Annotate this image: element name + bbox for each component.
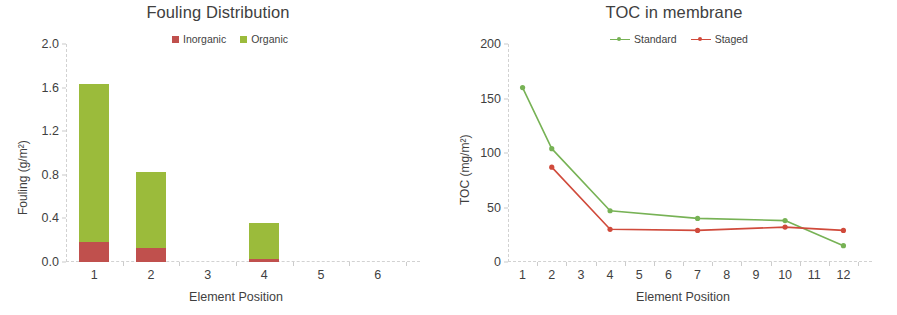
x-axis-line-fouling <box>66 261 420 262</box>
chart-panel-fouling-distribution: Fouling Distribution Inorganic Organic F… <box>0 0 440 315</box>
plot-area-toc-in-membrane: 050100150200123456789101112 <box>508 44 858 262</box>
x-tick-label-toc: 5 <box>636 268 643 282</box>
data-point-standard[interactable] <box>520 85 525 90</box>
bar-element-4[interactable] <box>249 223 279 262</box>
data-point-standard[interactable] <box>695 216 700 221</box>
chart-panel-toc-in-membrane: TOC in membrane Standard Staged TOC (mg/… <box>440 0 897 315</box>
legend-swatch-inorganic <box>172 36 179 43</box>
y-tick-mark-fouling <box>62 218 66 219</box>
y-axis-title-fouling: Fouling (g/m²) <box>16 140 30 215</box>
x-tick-mark-fouling <box>123 262 124 266</box>
x-tick-label-toc: 12 <box>836 268 850 282</box>
line-series-standard[interactable] <box>523 88 844 246</box>
x-tick-mark-toc <box>654 262 655 266</box>
legend-line-marker-staged <box>691 36 711 43</box>
y-tick-mark-fouling <box>62 44 66 45</box>
y-tick-mark-fouling <box>62 262 66 263</box>
data-point-standard[interactable] <box>607 208 612 213</box>
data-point-staged[interactable] <box>782 225 787 230</box>
x-tick-mark-toc <box>712 262 713 266</box>
data-point-staged[interactable] <box>549 165 554 170</box>
x-tick-mark-toc <box>537 262 538 266</box>
y-tick-mark-fouling <box>62 131 66 132</box>
data-point-staged[interactable] <box>607 227 612 232</box>
y-tick-mark-fouling <box>62 87 66 88</box>
x-tick-label-fouling: 1 <box>91 268 98 282</box>
bar-element-2[interactable] <box>136 172 166 262</box>
bar-segment-organic <box>136 172 166 248</box>
x-tick-label-toc: 4 <box>607 268 614 282</box>
x-tick-mark-fouling <box>349 262 350 266</box>
x-tick-mark-fouling <box>406 262 407 266</box>
bar-segment-inorganic <box>136 248 166 262</box>
x-tick-mark-toc <box>596 262 597 266</box>
x-tick-mark-toc <box>625 262 626 266</box>
x-tick-label-toc: 9 <box>752 268 759 282</box>
x-tick-mark-toc <box>829 262 830 266</box>
x-tick-mark-toc <box>858 262 859 266</box>
x-tick-mark-toc <box>683 262 684 266</box>
x-tick-label-toc: 10 <box>778 268 792 282</box>
x-tick-label-toc: 11 <box>808 268 821 282</box>
x-tick-label-fouling: 5 <box>318 268 325 282</box>
x-axis-title-fouling: Element Position <box>66 290 406 304</box>
x-tick-label-toc: 2 <box>548 268 555 282</box>
x-tick-mark-toc <box>566 262 567 266</box>
data-point-staged[interactable] <box>695 228 700 233</box>
x-tick-label-toc: 8 <box>723 268 730 282</box>
bar-segment-organic <box>249 223 279 259</box>
plot-area-fouling-distribution: 0.00.40.81.21.62.0123456 <box>66 44 406 262</box>
chart-title-fouling-distribution: Fouling Distribution <box>18 3 418 22</box>
figure-row: Fouling Distribution Inorganic Organic F… <box>0 0 897 315</box>
x-tick-mark-fouling <box>293 262 294 266</box>
data-point-standard[interactable] <box>782 218 787 223</box>
x-tick-label-fouling: 4 <box>261 268 268 282</box>
legend-swatch-organic <box>240 36 247 43</box>
bar-segment-organic <box>79 84 109 242</box>
x-tick-label-toc: 7 <box>694 268 701 282</box>
x-tick-label-toc: 3 <box>577 268 584 282</box>
bar-element-1[interactable] <box>79 84 109 262</box>
x-tick-label-fouling: 3 <box>204 268 211 282</box>
x-tick-mark-toc <box>771 262 772 266</box>
data-point-standard[interactable] <box>841 243 846 248</box>
x-tick-mark-fouling <box>236 262 237 266</box>
line-series-layer <box>508 44 858 262</box>
x-tick-mark-toc <box>800 262 801 266</box>
x-tick-mark-toc <box>741 262 742 266</box>
x-axis-title-toc: Element Position <box>508 290 858 304</box>
y-axis-title-toc: TOC (mg/m²) <box>458 135 472 205</box>
x-tick-label-toc: 1 <box>519 268 526 282</box>
data-point-standard[interactable] <box>549 146 554 151</box>
data-point-staged[interactable] <box>841 228 846 233</box>
x-tick-label-toc: 6 <box>665 268 672 282</box>
y-axis-line-fouling <box>66 44 67 262</box>
x-tick-mark-fouling <box>179 262 180 266</box>
x-tick-label-fouling: 6 <box>374 268 381 282</box>
legend-line-marker-standard <box>610 36 630 43</box>
bar-segment-inorganic <box>79 242 109 262</box>
x-tick-label-fouling: 2 <box>148 268 155 282</box>
chart-title-toc-in-membrane: TOC in membrane <box>474 3 874 22</box>
bar-segment-inorganic <box>249 259 279 262</box>
y-tick-mark-fouling <box>62 174 66 175</box>
